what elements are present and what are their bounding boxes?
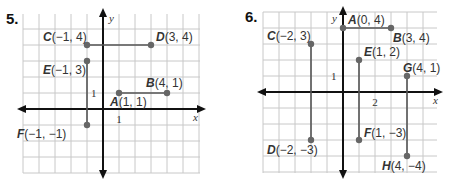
- point-A-label: A(1, 1): [109, 95, 147, 109]
- point-A: [340, 25, 346, 31]
- x-axis-label: x: [192, 111, 198, 123]
- point-F: [84, 122, 90, 128]
- x-tick-label: 1: [116, 113, 122, 125]
- arrow-down-icon: [339, 170, 347, 179]
- point-B: [164, 90, 170, 96]
- graph-problem-6: xy21A(0, 4)B(3, 4)C(−2, 3)D(−2, −3)E(1, …: [257, 6, 443, 179]
- graph-problem-5: xy11A(1, 1)B(4, 1)C(−1, 4)D(3, 4)E(−1, 3…: [17, 8, 206, 179]
- point-F-label: F(1, −3): [364, 126, 406, 140]
- arrow-left-icon: [257, 88, 266, 96]
- arrow-up-icon: [339, 6, 347, 15]
- arrow-left-icon: [17, 105, 26, 113]
- point-A-label: A(0, 4): [347, 13, 385, 27]
- arrow-down-icon: [99, 170, 107, 179]
- point-G-label: G(4, 1): [403, 61, 440, 75]
- point-H-label: H(4, −4): [382, 159, 426, 173]
- arrow-up-icon: [99, 8, 107, 17]
- y-tick-label: 1: [91, 87, 97, 99]
- x-tick-label: 2: [372, 96, 378, 108]
- point-D-label: D(3, 4): [156, 30, 193, 44]
- point-C-label: C(−1, 4): [43, 30, 87, 44]
- point-D: [148, 42, 154, 48]
- y-tick-label: 1: [331, 70, 337, 82]
- point-E: [356, 57, 362, 63]
- point-F: [356, 137, 362, 143]
- point-F-label: F(−1, −1): [17, 127, 66, 141]
- arrow-right-icon: [197, 105, 206, 113]
- graphs-canvas: xy11A(1, 1)B(4, 1)C(−1, 4)D(3, 4)E(−1, 3…: [0, 0, 449, 183]
- point-B-label: B(3, 4): [393, 31, 430, 45]
- y-axis-label: y: [331, 12, 337, 24]
- point-D-label: D(−2, −3): [267, 143, 318, 157]
- x-axis-label: x: [432, 94, 438, 106]
- y-axis-label: y: [108, 12, 114, 24]
- point-E-label: E(1, 2): [364, 45, 400, 59]
- point-B-label: B(4, 1): [146, 76, 183, 90]
- point-C-label: C(−2, 3): [267, 29, 311, 43]
- point-E-label: E(−1, 3): [43, 63, 86, 77]
